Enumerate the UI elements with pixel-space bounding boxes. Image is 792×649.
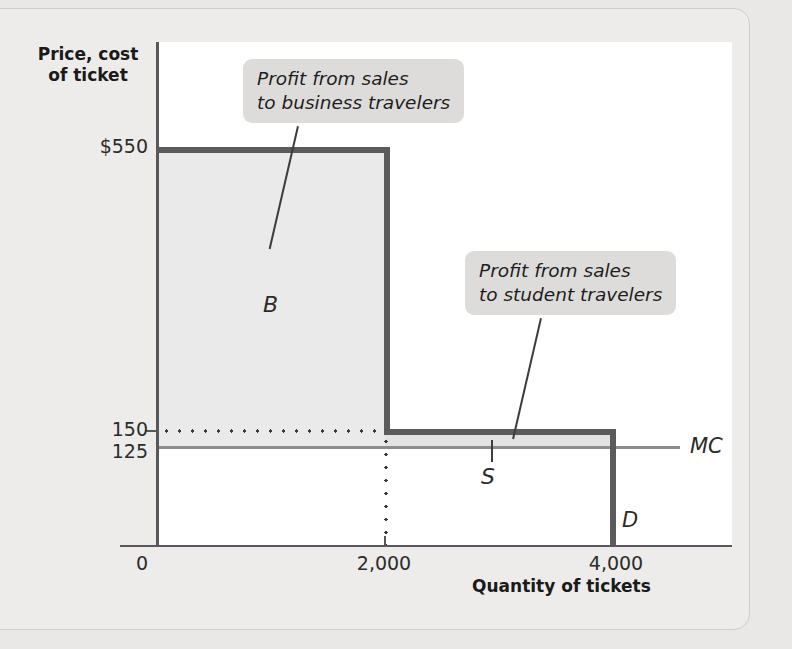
economics-price-discrimination-figure: MC D Price, cost of ticket Quantity of t… [0, 0, 792, 649]
region-label-s: S [481, 464, 495, 489]
x-axis-title: Quantity of tickets [472, 576, 702, 597]
y-axis-title-line2: of ticket [28, 65, 148, 86]
demand-curve-label: D [622, 508, 638, 532]
x-tick-mark-2000 [384, 536, 386, 546]
demand-segment-drop-at-2000 [384, 147, 390, 435]
dotted-guide-horizontal-150 [160, 429, 386, 433]
callout-business-line2: to business travelers [257, 91, 450, 115]
x-tick-label-2000: 2,000 [329, 552, 439, 574]
y-tick-label-150: 150 [40, 418, 148, 440]
marginal-cost-label: MC [690, 434, 723, 458]
callout-business-profit: Profit from sales to business travelers [243, 59, 464, 123]
y-tick-label-125: 125 [40, 440, 148, 462]
dotted-guide-vertical-2000 [384, 435, 388, 545]
callout-student-profit: Profit from sales to student travelers [465, 251, 676, 315]
demand-segment-150 [384, 429, 616, 435]
y-axis-title-line1: Price, cost [28, 44, 148, 65]
y-tick-label-550: $550 [40, 135, 148, 157]
demand-segment-550 [159, 147, 390, 153]
callout-student-line1: Profit from sales [479, 259, 662, 283]
y-axis-line [156, 42, 159, 547]
region-label-b: B [263, 292, 278, 317]
region-s-pointer-line [491, 440, 493, 462]
y-axis-title: Price, cost of ticket [28, 44, 148, 87]
x-tick-label-4000: 4,000 [561, 552, 671, 574]
demand-segment-drop-at-4000 [610, 429, 616, 546]
x-axis-line [120, 545, 732, 547]
marginal-cost-line [159, 446, 680, 449]
y-tick-label-0: 0 [40, 552, 148, 574]
callout-student-line2: to student travelers [479, 283, 662, 307]
callout-business-line1: Profit from sales [257, 67, 450, 91]
